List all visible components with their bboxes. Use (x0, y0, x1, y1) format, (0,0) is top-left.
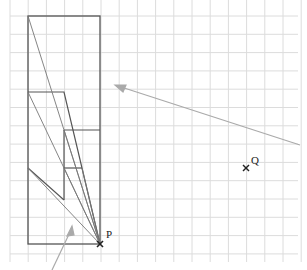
pointer-arrows (52, 85, 300, 270)
point-q-label: Q (251, 154, 259, 166)
point-p-label: P (106, 228, 112, 240)
diagram-canvas: P Q (0, 0, 307, 270)
diagram-svg (0, 0, 307, 270)
point-q-marker (243, 165, 249, 171)
